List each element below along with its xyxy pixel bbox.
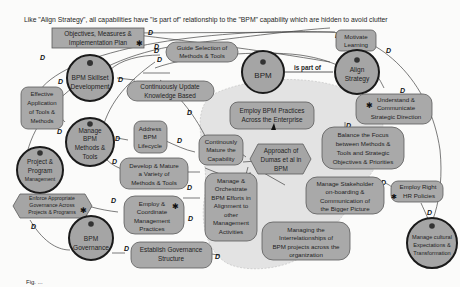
svg-text:Practices: Practices <box>139 225 164 232</box>
svg-text:Projects & Programs: Projects & Programs <box>28 209 76 215</box>
svg-text:Tools and Strategic: Tools and Strategic <box>337 149 390 156</box>
svg-text:D: D <box>177 137 182 144</box>
svg-text:D: D <box>154 47 159 54</box>
svg-text:D: D <box>124 245 129 252</box>
node-objectives-measures-plan[interactable]: Objectives, Measures & Implementation Pl… <box>52 28 144 48</box>
asterisk-icon: ✱ <box>172 202 179 211</box>
svg-text:Governance Across: Governance Across <box>29 202 75 208</box>
capability-icon <box>87 60 93 66</box>
svg-text:Capability: Capability <box>207 155 235 162</box>
figure-caption-footer: Fig. ... <box>26 279 43 285</box>
node-motivate-learning[interactable]: Motivate Learning <box>336 30 376 51</box>
svg-text:Managing the: Managing the <box>287 226 325 233</box>
capability-icon <box>87 121 93 127</box>
svg-text:Align: Align <box>350 66 365 74</box>
svg-text:BPM Efforts in: BPM Efforts in <box>211 194 251 201</box>
svg-text:HR Policies: HR Policies <box>403 192 435 199</box>
svg-text:Employ BPM Practices: Employ BPM Practices <box>240 107 305 115</box>
svg-text:BPM: BPM <box>83 135 97 142</box>
capability-project-program-management[interactable]: Project & Program Management <box>17 147 63 193</box>
svg-text:Interrelationships of: Interrelationships of <box>279 234 333 241</box>
svg-text:Knowledge Based: Knowledge Based <box>144 92 196 100</box>
node-understand-communicate[interactable]: ✱ Understand & Communicate Strategic Dir… <box>356 94 432 124</box>
svg-text:Methods: Methods <box>30 118 53 124</box>
is-part-of-label: is part of <box>294 64 322 72</box>
node-establish-governance[interactable]: Establish Governance Structure <box>131 242 212 268</box>
svg-text:Objectives, Measures &: Objectives, Measures & <box>64 30 132 38</box>
node-continuously-update[interactable]: Continuously Update Knowledge Based <box>127 81 214 101</box>
asterisk-icon: ✱ <box>391 193 397 201</box>
capability-icon <box>354 57 360 63</box>
svg-text:D: D <box>148 29 153 36</box>
svg-text:organization: organization <box>289 251 323 258</box>
svg-text:Objectives & Priorities: Objectives & Priorities <box>333 158 394 165</box>
svg-text:Communication of: Communication of <box>320 197 370 204</box>
svg-text:D: D <box>400 87 405 94</box>
svg-text:D: D <box>215 253 220 260</box>
svg-text:Balance the Focus: Balance the Focus <box>337 131 388 138</box>
svg-text:Approach of: Approach of <box>264 147 299 155</box>
svg-text:D: D <box>31 223 36 230</box>
svg-text:D: D <box>112 158 117 165</box>
svg-text:Methods & Tools: Methods & Tools <box>179 52 225 59</box>
svg-text:BPM: BPM <box>143 133 156 140</box>
node-employ-coordinate[interactable]: ✱ Employ & Coordinate Management Practic… <box>124 196 184 234</box>
asterisk-icon: ✱ <box>80 206 87 215</box>
node-enforce-governance[interactable]: Enforce Appropriate Governance Across Pr… <box>13 194 92 218</box>
diagram-caption: Like "Align Strategy", all capabilities … <box>24 16 388 24</box>
node-effective-application[interactable]: Effective Application of Tools & Methods <box>21 87 63 129</box>
node-manage-orchestrate[interactable]: Manage & Orchestrate BPM Efforts in Alig… <box>205 173 257 241</box>
capability-bpm-skillset-development[interactable]: BPM Skillset Development <box>67 55 113 101</box>
svg-text:Address: Address <box>139 125 162 132</box>
svg-text:Development: Development <box>71 83 110 91</box>
node-managing-interrelationships[interactable]: Managing the Interrelationships of BPM p… <box>262 222 350 260</box>
svg-text:Management: Management <box>213 219 249 226</box>
svg-text:Management: Management <box>134 217 170 224</box>
svg-text:Project &: Project & <box>27 158 54 166</box>
svg-text:Dumas et al in: Dumas et al in <box>261 156 302 163</box>
svg-text:Governance: Governance <box>73 244 109 251</box>
svg-text:D: D <box>187 184 192 191</box>
node-employ-bpm-practices[interactable]: Employ BPM Practices Across the Enterpri… <box>230 102 314 129</box>
svg-text:Effective: Effective <box>31 91 55 97</box>
asterisk-icon: ✱ <box>366 101 373 110</box>
svg-text:a Variety of: a Variety of <box>139 170 170 177</box>
svg-text:Structure: Structure <box>158 255 184 262</box>
svg-text:Methods & Tools: Methods & Tools <box>131 179 177 186</box>
svg-text:of Tools &: of Tools & <box>29 109 55 115</box>
svg-text:Orchestrate: Orchestrate <box>215 185 248 192</box>
svg-text:BPM projects across the: BPM projects across the <box>272 243 340 250</box>
svg-text:Employ Right: Employ Right <box>400 183 437 190</box>
svg-text:Tools: Tools <box>83 153 98 160</box>
capability-icon <box>37 150 43 156</box>
svg-text:on-boarding &: on-boarding & <box>326 188 366 195</box>
svg-text:Methods &: Methods & <box>75 144 106 151</box>
node-address-bpm-lifecycle[interactable]: Address BPM Lifecycle <box>134 121 167 153</box>
capability-bpm[interactable]: BPM <box>242 51 284 93</box>
svg-text:Manage Stakeholder: Manage Stakeholder <box>316 180 373 187</box>
svg-text:Employ &: Employ & <box>139 200 166 207</box>
svg-text:D: D <box>187 109 192 116</box>
node-manage-stakeholder[interactable]: Manage Stakeholder on-boarding & Communi… <box>306 177 384 214</box>
svg-text:the Bigger Picture: the Bigger Picture <box>320 205 370 212</box>
node-balance-the-focus[interactable]: Balance the Focus between Methods & Tool… <box>322 127 404 169</box>
capability-bpm-governance[interactable]: BPM Governance <box>69 216 113 260</box>
svg-text:Alignment to: Alignment to <box>214 202 249 209</box>
svg-text:Coordinate: Coordinate <box>137 208 168 215</box>
node-employ-right-hr[interactable]: ✱ Employ Right HR Policies <box>391 181 443 202</box>
node-develop-mature-methods[interactable]: Develop & Mature a Variety of Methods & … <box>120 158 188 189</box>
capability-icon <box>260 59 266 65</box>
svg-text:Management: Management <box>25 176 56 182</box>
node-continously-mature-capability[interactable]: Continously Mature the Capability <box>199 135 243 165</box>
svg-text:Transformation: Transformation <box>413 250 450 256</box>
svg-text:Manage cultural: Manage cultural <box>412 234 452 240</box>
svg-text:Enforce Appropriate: Enforce Appropriate <box>29 195 75 201</box>
capability-manage-cultural-expectations[interactable]: Manage cultural Expectations & Transform… <box>407 218 457 268</box>
node-guide-selection[interactable]: Guide Selection of Methods & Tools <box>166 42 238 62</box>
svg-text:BPM: BPM <box>84 235 98 242</box>
svg-text:Understand &: Understand & <box>377 96 416 103</box>
capability-align-strategy[interactable]: Align Strategy <box>335 50 379 94</box>
svg-text:Across the Enterprise: Across the Enterprise <box>241 116 303 124</box>
capability-manage-bpm-methods-tools[interactable]: Manage BPM Methods & Tools <box>66 118 114 166</box>
svg-text:BPM: BPM <box>274 165 288 172</box>
